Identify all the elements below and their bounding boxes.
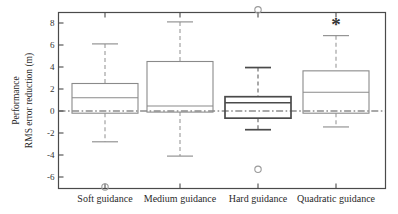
x-category-label: Soft guidance — [77, 193, 133, 204]
y-tick-label: -6 — [47, 172, 55, 182]
y-tick-label: 4 — [50, 62, 55, 72]
y-tick-label: 2 — [50, 84, 55, 94]
significance-asterisk: * — [331, 14, 341, 35]
x-category-label: Quadratic guidance — [297, 193, 376, 204]
y-axis-title-line2: RMS error reduction (m) — [24, 53, 35, 148]
y-tick-label: -4 — [47, 150, 55, 160]
y-tick-label: 0 — [50, 106, 55, 116]
box-iqr — [225, 97, 291, 118]
y-tick-label: -2 — [47, 128, 55, 138]
x-category-label: Medium guidance — [144, 193, 217, 204]
y-tick-label: 6 — [50, 40, 55, 50]
x-category-label: Hard guidance — [229, 193, 288, 204]
boxplot-svg: -6-4-202468*Soft guidanceMedium guidance… — [0, 0, 398, 214]
outlier-marker — [255, 166, 261, 172]
y-tick-label: 8 — [50, 18, 55, 28]
boxplot-figure: -6-4-202468*Soft guidanceMedium guidance… — [0, 0, 398, 214]
y-axis-title-line1: Performance — [11, 76, 21, 125]
box-iqr — [147, 62, 213, 113]
